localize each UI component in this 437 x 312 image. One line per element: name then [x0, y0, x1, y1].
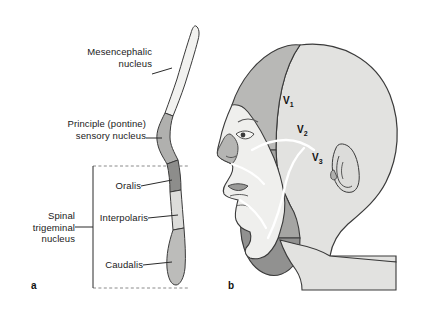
label-mesencephalic-nucleus: Mesencephalic nucleus — [44, 46, 152, 69]
v1-subscript: 1 — [290, 101, 294, 108]
v2-subscript: 2 — [304, 130, 308, 137]
segment-interpolaris — [170, 190, 184, 230]
v2-letter: V — [297, 124, 304, 135]
dermatome-label-v2: V2 — [297, 124, 308, 137]
panel-b-letter: b — [228, 280, 234, 291]
label-interpolaris: Interpolaris — [68, 212, 148, 224]
pupil — [241, 133, 246, 138]
v1-letter: V — [283, 95, 290, 106]
panel-a-letter: a — [31, 280, 37, 291]
dermatome-label-v1: V1 — [283, 95, 294, 108]
v3-letter: V — [312, 152, 319, 163]
label-spinal-trigeminal-nucleus: Spinal trigeminal nucleus — [18, 210, 75, 245]
v3-subscript: 3 — [319, 158, 323, 165]
label-caudalis: Caudalis — [78, 259, 143, 271]
dermatome-label-v3: V3 — [312, 152, 323, 165]
label-oralis: Oralis — [86, 180, 141, 192]
label-principal-sensory-nucleus: Principle (pontine) sensory nucleus — [36, 118, 146, 141]
